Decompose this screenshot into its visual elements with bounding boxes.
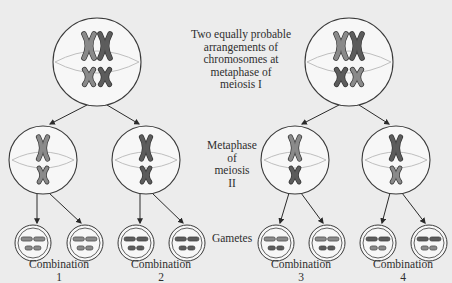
combination-title: Combination — [121, 258, 201, 271]
arrow-icon — [359, 105, 389, 124]
caption-line: metaphase of — [166, 66, 316, 79]
metaphase-two-cell — [9, 126, 77, 194]
meiosis-diagram: Two equally probable arrangements of chr… — [0, 0, 452, 283]
combination-2-label: Combination 2 — [121, 258, 201, 283]
combination-title: Combination — [363, 258, 443, 271]
gamete — [411, 225, 447, 261]
combination-title: Combination — [261, 258, 341, 271]
combination-1-label: Combination 1 — [19, 258, 99, 283]
gamete — [67, 225, 103, 261]
metaphase-one-cell — [305, 18, 393, 106]
combination-number: 2 — [121, 271, 201, 283]
gamete-outer-membrane — [309, 225, 345, 261]
combination-3-label: Combination 3 — [261, 258, 341, 283]
cell-membrane — [9, 126, 77, 194]
caption-line: Two equally probable — [166, 28, 316, 41]
cell-membrane — [362, 126, 430, 194]
caption-line: II — [190, 177, 274, 190]
chromosome-icon — [142, 168, 150, 182]
chromosome-icon — [392, 168, 400, 182]
gamete-outer-membrane — [67, 225, 103, 261]
caption-line: Metaphase — [190, 139, 274, 152]
chromosome-icon — [39, 168, 47, 182]
chromosome-icon — [291, 168, 299, 182]
arrow-icon — [152, 193, 183, 223]
arrow-icon — [280, 193, 289, 223]
gamete — [309, 225, 345, 261]
metaphase-one-caption: Two equally probable arrangements of chr… — [166, 28, 316, 91]
combination-4-label: Combination 4 — [363, 258, 443, 283]
gamete — [118, 225, 154, 261]
gametes-caption: Gametes — [199, 232, 265, 245]
metaphase-two-cell — [112, 126, 180, 194]
arrow-icon — [49, 193, 81, 223]
arrow-icon — [50, 105, 87, 124]
gamete-outer-membrane — [360, 225, 396, 261]
combination-number: 3 — [261, 271, 341, 283]
caption-line: chromosomes at — [166, 53, 316, 66]
combination-title: Combination — [19, 258, 99, 271]
arrow-icon — [301, 193, 323, 223]
metaphase-two-caption: Metaphase of meiosis II — [190, 139, 274, 189]
combination-number: 1 — [19, 271, 99, 283]
gamete-outer-membrane — [118, 225, 154, 261]
cell-membrane — [53, 18, 141, 106]
caption-line: of — [190, 152, 274, 165]
arrow-icon — [107, 105, 139, 124]
gamete — [360, 225, 396, 261]
gamete-outer-membrane — [15, 225, 51, 261]
metaphase-one-cell — [53, 18, 141, 106]
arrow-icon — [382, 193, 390, 223]
metaphase-two-cell — [362, 126, 430, 194]
gamete — [15, 225, 51, 261]
cell-membrane — [305, 18, 393, 106]
caption-line: meiosis — [190, 164, 274, 177]
combination-number: 4 — [363, 271, 443, 283]
gamete-outer-membrane — [411, 225, 447, 261]
caption-line: meiosis I — [166, 78, 316, 91]
arrow-icon — [302, 105, 339, 124]
arrow-icon — [402, 193, 425, 223]
cell-membrane — [112, 126, 180, 194]
caption-line: arrangements of — [166, 41, 316, 54]
